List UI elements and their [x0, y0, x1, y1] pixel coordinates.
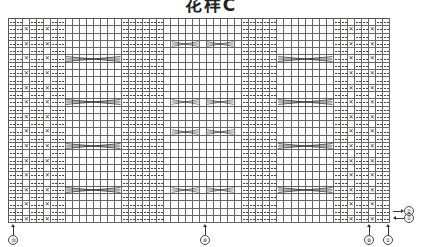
- chart-cell: [150, 136, 157, 143]
- chart-cell: [341, 26, 348, 33]
- chart-cell: [171, 187, 178, 194]
- chart-cell: [51, 107, 58, 114]
- chart-cell: [143, 128, 150, 135]
- chart-cell: [193, 48, 200, 55]
- chart-cell: [313, 99, 320, 106]
- chart-cell: [292, 77, 299, 84]
- column-marker: ⑳: [8, 224, 18, 245]
- chart-cell: [73, 165, 80, 172]
- chart-cell: [228, 180, 235, 187]
- chart-cell: [256, 194, 263, 201]
- chart-cell: [179, 209, 186, 216]
- chart-cell: [157, 187, 164, 194]
- chart-cell: [108, 209, 115, 216]
- chart-cell: [108, 92, 115, 99]
- chart-cell: [221, 172, 228, 179]
- chart-cell: [164, 92, 171, 99]
- chart-cell: [221, 201, 228, 208]
- chart-cell: [44, 85, 51, 92]
- chart-cell: [73, 143, 80, 150]
- chart-cell: [44, 41, 51, 48]
- chart-cell: [37, 107, 44, 114]
- chart-cell: [200, 99, 207, 106]
- chart-cell: [51, 201, 58, 208]
- chart-cell: [306, 70, 313, 77]
- chart-cell: [87, 194, 94, 201]
- chart-cell: [299, 209, 306, 216]
- chart-cell: [80, 85, 87, 92]
- chart-cell: [299, 19, 306, 26]
- chart-cell: [355, 99, 362, 106]
- chart-cell: [235, 48, 242, 55]
- chart-cell: [263, 99, 270, 106]
- chart-cell: [44, 26, 51, 33]
- chart-cell: [292, 187, 299, 194]
- chart-cell: [179, 187, 186, 194]
- chart-cell: [214, 85, 221, 92]
- chart-cell: [228, 107, 235, 114]
- chart-cell: [292, 216, 299, 223]
- chart-cell: [263, 85, 270, 92]
- chart-cell: [221, 48, 228, 55]
- chart-cell: [66, 172, 73, 179]
- chart-cell: [73, 194, 80, 201]
- chart-cell: [58, 180, 65, 187]
- chart-cell: [186, 77, 193, 84]
- chart-cell: [214, 201, 221, 208]
- chart-cell: [383, 201, 390, 208]
- chart-cell: [136, 55, 143, 62]
- chart-cell: [383, 99, 390, 106]
- chart-cell: [362, 19, 369, 26]
- chart-cell: [242, 26, 249, 33]
- chart-cell: [355, 34, 362, 41]
- chart-cell: [80, 92, 87, 99]
- chart-cell: [16, 19, 23, 26]
- chart-cell: [292, 143, 299, 150]
- chart-cell: [355, 114, 362, 121]
- chart-cell: [30, 121, 37, 128]
- chart-cell: [299, 128, 306, 135]
- chart-cell: [129, 216, 136, 223]
- chart-cell: [376, 180, 383, 187]
- chart-cell: [200, 209, 207, 216]
- chart-cell: [348, 41, 355, 48]
- chart-cell: [376, 92, 383, 99]
- chart-cell: [249, 136, 256, 143]
- chart-cell: [58, 143, 65, 150]
- chart-cell: [171, 77, 178, 84]
- chart-cell: [101, 26, 108, 33]
- chart-cell: [214, 19, 221, 26]
- chart-cell: [306, 55, 313, 62]
- chart-cell: [327, 63, 334, 70]
- chart-cell: [193, 158, 200, 165]
- chart-cell: [157, 41, 164, 48]
- chart-cell: [87, 92, 94, 99]
- chart-cell: [221, 107, 228, 114]
- chart-cell: [327, 26, 334, 33]
- chart-cell: [193, 34, 200, 41]
- chart-cell: [150, 180, 157, 187]
- chart-cell: [376, 187, 383, 194]
- chart-cell: [263, 136, 270, 143]
- chart-cell: [306, 107, 313, 114]
- chart-cell: [207, 99, 214, 106]
- chart-cell: [23, 70, 30, 77]
- chart-cell: [214, 172, 221, 179]
- chart-cell: [179, 63, 186, 70]
- chart-cell: [256, 19, 263, 26]
- chart-cell: [157, 121, 164, 128]
- chart-cell: [179, 165, 186, 172]
- chart-cell: [58, 55, 65, 62]
- chart-cell: [242, 216, 249, 223]
- chart-cell: [277, 26, 284, 33]
- chart-cell: [136, 63, 143, 70]
- chart-cell: [348, 201, 355, 208]
- chart-cell: [129, 187, 136, 194]
- chart-cell: [23, 114, 30, 121]
- chart-cell: [306, 92, 313, 99]
- chart-cell: [30, 128, 37, 135]
- chart-cell: [256, 63, 263, 70]
- chart-cell: [16, 85, 23, 92]
- chart-cell: [171, 165, 178, 172]
- chart-cell: [207, 19, 214, 26]
